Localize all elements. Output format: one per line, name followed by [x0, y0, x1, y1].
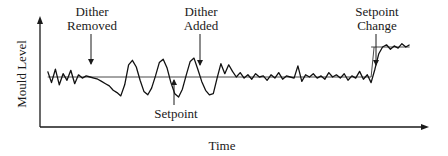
y-axis-label: Mould Level — [14, 40, 29, 108]
x-axis-label: Time — [209, 138, 236, 153]
annotation-dither-removed-line2: Removed — [67, 18, 117, 33]
annotation-setpoint-text: Setpoint — [154, 106, 198, 121]
setpoint-line — [48, 47, 410, 77]
mould-level-diagram: Mould Level Time Dither Removed Dither A… — [0, 0, 448, 156]
annotation-setpoint-change-line2: Change — [357, 18, 397, 33]
annotation-setpoint-change-line1: Setpoint — [355, 4, 399, 19]
mould-level-trace — [48, 44, 410, 97]
annotation-setpoint-change: Setpoint Change — [355, 4, 399, 65]
annotation-dither-added-line1: Dither — [184, 4, 218, 19]
annotation-setpoint: Setpoint — [154, 80, 198, 121]
annotation-dither-removed-line1: Dither — [75, 4, 109, 19]
annotation-dither-added-line2: Added — [184, 18, 219, 33]
annotation-dither-removed: Dither Removed — [67, 4, 117, 64]
annotation-dither-added: Dither Added — [184, 4, 219, 65]
